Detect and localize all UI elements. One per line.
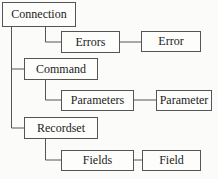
node-label: Parameter <box>160 93 209 108</box>
node-label: Connection <box>11 7 66 22</box>
node-parameters: Parameters <box>61 90 134 111</box>
node-errors: Errors <box>61 31 120 53</box>
node-error: Error <box>141 31 201 52</box>
edge-connection-errors <box>46 27 62 42</box>
node-command: Command <box>24 58 98 80</box>
node-recordset: Recordset <box>24 117 98 139</box>
node-label: Recordset <box>37 121 85 136</box>
node-label: Fields <box>83 153 112 168</box>
node-parameter: Parameter <box>156 90 212 111</box>
edge-recordset-fields <box>46 139 62 160</box>
node-label: Command <box>36 62 86 77</box>
node-label: Parameters <box>71 93 124 108</box>
node-label: Field <box>159 153 184 168</box>
node-connection: Connection <box>2 2 76 27</box>
node-fields: Fields <box>61 150 134 171</box>
node-field: Field <box>142 150 201 171</box>
node-label: Errors <box>76 35 106 50</box>
edge-command-parameters <box>46 80 62 100</box>
node-label: Error <box>158 34 183 49</box>
edge-connection-recordset <box>12 27 25 128</box>
